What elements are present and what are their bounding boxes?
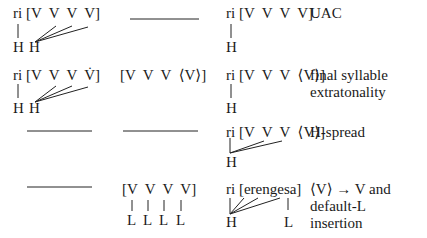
row4-col2-sequence: [V V V V] — [122, 182, 196, 197]
row1-col1-tone-2: H — [29, 40, 40, 55]
row1-step-label: UAC — [310, 5, 342, 22]
row2-col1-tone-2: H — [29, 101, 40, 116]
row2-col1-tone-1: H — [13, 101, 24, 116]
row4-col3-tone-2: L — [284, 215, 293, 230]
row1-col1-sequence: ri [V V V V] — [13, 6, 100, 21]
row3-col3-tone: H — [226, 155, 237, 170]
row4-col2-tone-2: L — [143, 213, 152, 228]
row4-col2-tone-4: L — [176, 213, 185, 228]
row4-col3-tone-1: H — [226, 215, 237, 230]
row4-col2-tone-1: L — [127, 213, 136, 228]
row4-col3-sequence: ri [erengesa] — [226, 182, 301, 197]
row3-step-label: H-spread — [310, 124, 365, 141]
row4-col2-tone-3: L — [159, 213, 168, 228]
row2-col1-sequence: ri [V V V V̇] — [13, 68, 100, 83]
row2-col3-tone: H — [226, 101, 237, 116]
row2-col2-sequence: [V V V ⟨V⟩] — [120, 68, 206, 83]
row2-step-label: final syllable extratonality — [310, 67, 388, 101]
row1-col3-sequence: ri [V V V V] — [226, 6, 313, 21]
row1-col1-tone-1: H — [13, 40, 24, 55]
row4-step-label: ⟨V⟩ → V and default-L insertion — [310, 181, 391, 232]
row1-col3-tone: H — [226, 40, 237, 55]
